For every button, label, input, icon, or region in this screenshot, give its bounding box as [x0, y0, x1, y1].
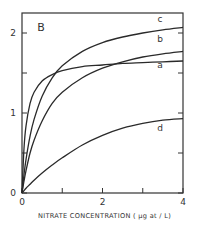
x-axis-label: NITRATE CONCENTRATION ( μg at / L) — [38, 212, 171, 220]
y-tick-label: 1 — [10, 108, 16, 118]
x-tick-label: 4 — [180, 197, 186, 207]
curves — [22, 27, 183, 193]
curve-label-d: d — [157, 123, 163, 133]
curve-label-b: b — [157, 34, 163, 44]
curve-label-a: a — [157, 60, 163, 70]
y-tick-label: 0 — [10, 188, 16, 198]
labels: 024012abcdBNITRATE CONCENTRATION ( μg at… — [10, 14, 186, 220]
x-tick-label: 2 — [100, 197, 106, 207]
panel-label: B — [37, 21, 45, 34]
y-tick-label: 2 — [10, 28, 16, 38]
x-tick-label: 0 — [19, 197, 25, 207]
curve-c — [22, 27, 183, 193]
nitrate-uptake-chart: 024012abcdBNITRATE CONCENTRATION ( μg at… — [0, 0, 197, 228]
curve-label-c: c — [158, 14, 163, 24]
